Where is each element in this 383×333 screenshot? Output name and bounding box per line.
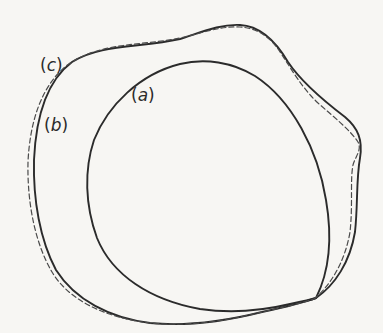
contour-figure: (c) (b) (a): [0, 0, 383, 333]
label-b-close: ): [61, 115, 68, 135]
label-a-letter: a: [138, 85, 148, 105]
curve-b: [34, 25, 361, 324]
label-c-close: ): [56, 55, 63, 75]
label-a: (a): [131, 87, 155, 104]
curve-c: [28, 27, 359, 324]
curve-a: [87, 61, 329, 311]
label-c: (c): [40, 57, 63, 74]
label-a-open: (: [131, 85, 138, 105]
label-c-letter: c: [47, 55, 56, 75]
label-b: (b): [44, 117, 68, 134]
contour-canvas: [0, 0, 383, 333]
label-b-open: (: [44, 115, 51, 135]
label-b-letter: b: [51, 115, 62, 135]
label-c-open: (: [40, 55, 47, 75]
label-a-close: ): [148, 85, 155, 105]
